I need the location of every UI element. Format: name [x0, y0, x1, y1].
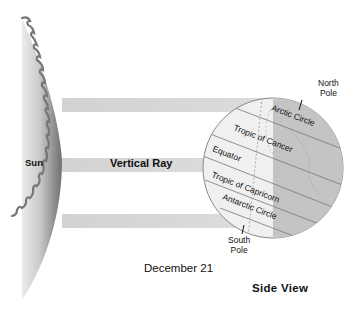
south-pole-line1: South — [228, 235, 250, 245]
bottom-ray — [62, 214, 242, 228]
south-pole-label: South Pole — [228, 235, 250, 255]
north-pole-line1: North — [318, 78, 339, 88]
view-label: Side View — [252, 282, 308, 294]
north-pole-line2: Pole — [318, 88, 339, 98]
south-pole-line2: Pole — [228, 245, 250, 255]
sun-label: Sun — [25, 157, 43, 168]
date-label: December 21 — [144, 262, 213, 274]
north-pole-label: North Pole — [318, 78, 339, 98]
earth-sun-diagram: Arctic Circle Tropic of Cancer Equator T… — [0, 0, 356, 315]
vertical-ray-label: Vertical Ray — [110, 157, 172, 169]
